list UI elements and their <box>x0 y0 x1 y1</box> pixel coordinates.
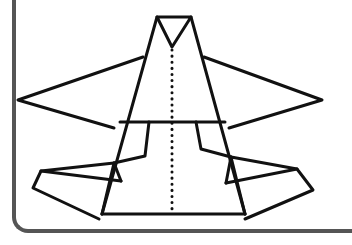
right-flap-strut <box>226 157 231 183</box>
nose-triangle <box>157 17 191 47</box>
right-flap-inner <box>196 122 245 214</box>
right-wing <box>204 57 322 128</box>
left-flap-diagonal <box>41 171 121 181</box>
left-flap-inner <box>102 122 149 214</box>
diagram-lines <box>18 17 322 219</box>
left-wing <box>18 57 143 128</box>
